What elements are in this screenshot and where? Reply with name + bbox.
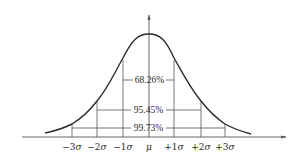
interval-label-3sigma: 99.73% — [134, 123, 163, 133]
tick-mu: μ — [146, 142, 152, 152]
interval-label-2sigma: 95.45% — [134, 105, 163, 115]
tick-plus-1sigma: +1σ — [164, 142, 184, 152]
tick-plus-2sigma: +2σ — [191, 142, 211, 152]
tick-minus-2sigma: −2σ — [87, 142, 107, 152]
normal-distribution-diagram: 68.26% 95.45% 99.73% −3σ −2σ −1σ μ +1σ +… — [0, 0, 302, 160]
tick-plus-3sigma: +3σ — [215, 142, 235, 152]
x-tick-labels: −3σ −2σ −1σ μ +1σ +2σ +3σ — [62, 142, 235, 152]
tick-minus-3sigma: −3σ — [62, 142, 82, 152]
interval-label-1sigma: 68.26% — [135, 75, 164, 85]
tick-minus-1sigma: −1σ — [113, 142, 133, 152]
